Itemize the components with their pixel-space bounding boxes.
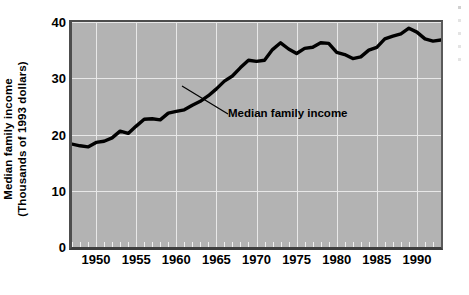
page-edge-fleck [458, 45, 461, 48]
y-axis-title-line-1: Median family income [2, 14, 16, 264]
x-tick-label: 1970 [235, 252, 279, 267]
data-series-line [72, 22, 441, 247]
x-tick-label: 1975 [275, 252, 319, 267]
x-tick-label: 1960 [154, 252, 198, 267]
x-tick-label: 1980 [315, 252, 359, 267]
y-tick-label: 30 [40, 72, 66, 85]
page-edge-fleck [458, 6, 461, 9]
x-axis-tick-labels: 195019551960196519701975198019851990 [69, 252, 443, 272]
page-edge-fleck [458, 19, 461, 22]
page-edge-artifacts [456, 6, 469, 68]
y-tick-label: 0 [40, 241, 66, 254]
x-tick-label: 1955 [114, 252, 158, 267]
x-tick-label: 1985 [355, 252, 399, 267]
y-axis-tick-labels: 010203040 [38, 0, 66, 260]
y-axis-title: Median family income (Thousands of 1993 … [0, 0, 40, 260]
x-minor-tick [441, 242, 442, 247]
y-axis-title-line-2: (Thousands of 1993 dollars) [16, 14, 30, 264]
y-tick-label: 40 [40, 16, 66, 29]
page-edge-fleck [458, 58, 461, 61]
y-tick-label: 20 [40, 129, 66, 142]
chart-figure: Median family income (Thousands of 1993 … [0, 0, 469, 295]
x-tick-label: 1990 [395, 252, 439, 267]
x-tick-label: 1950 [74, 252, 118, 267]
plot-area [69, 20, 443, 250]
annotation-median-family-income: Median family income [228, 107, 348, 119]
x-tick-label: 1965 [194, 252, 238, 267]
page-edge-fleck [458, 32, 461, 35]
plot-inner [72, 22, 441, 247]
y-tick-label: 10 [40, 185, 66, 198]
